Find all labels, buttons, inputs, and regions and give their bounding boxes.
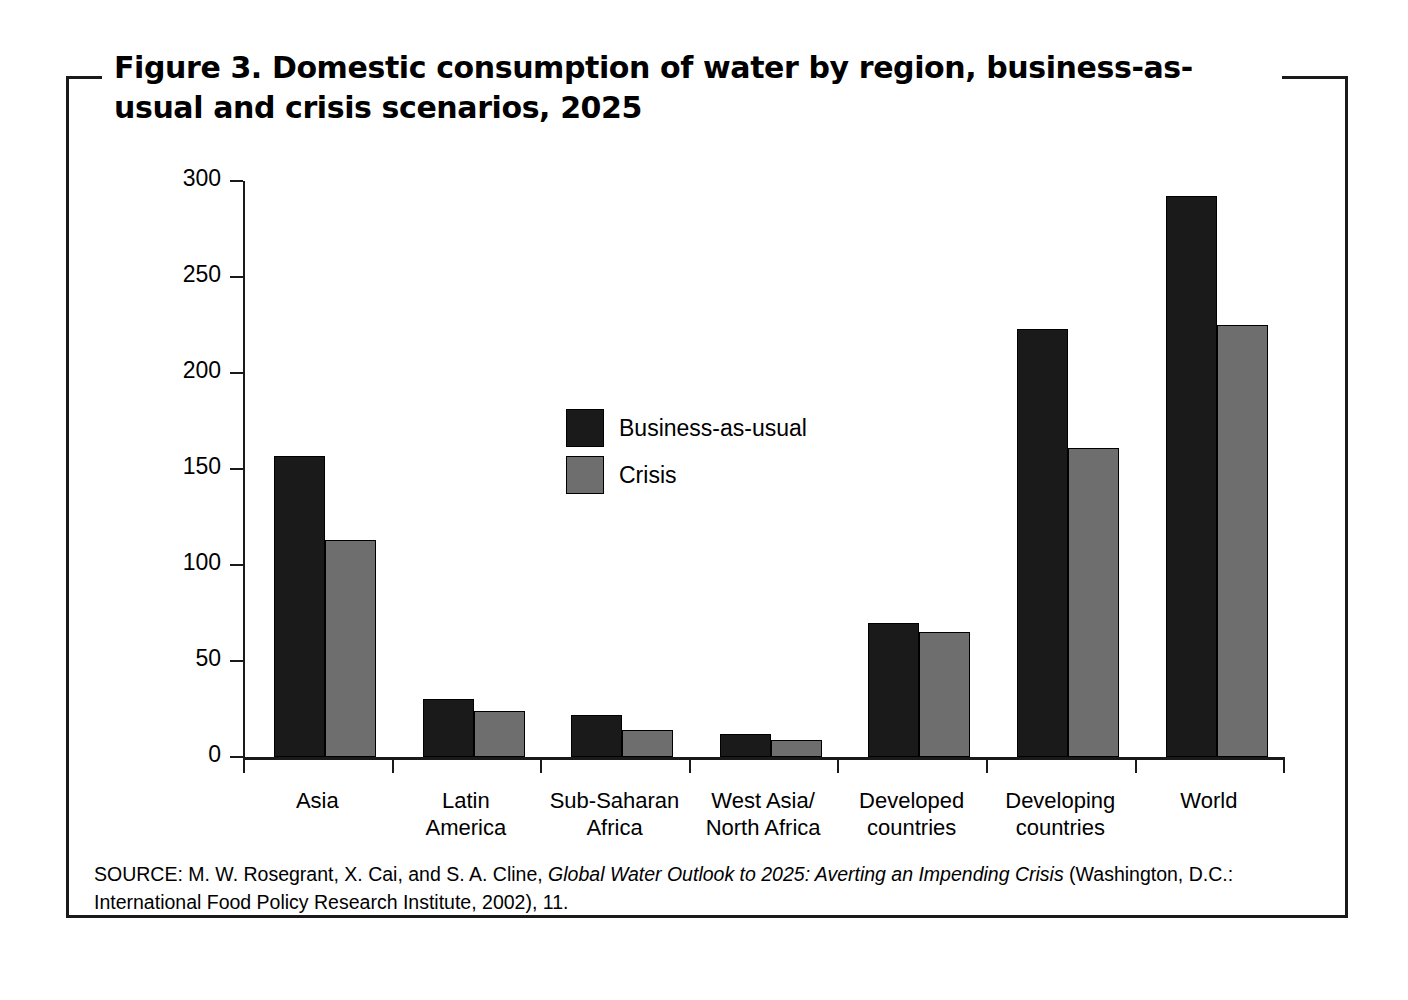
legend-item-crisis: Crisis [566,456,807,494]
y-tick-label-150: 150 [143,453,221,480]
y-tick-label-100: 100 [143,549,221,576]
bar-business-as-usual-4 [868,623,919,757]
y-tick-label-250: 250 [143,261,221,288]
bar-crisis-2 [622,730,673,757]
plot-area: 050100150200250300 AsiaLatinAmericaSub-S… [243,181,1285,757]
x-tick-5 [986,757,988,773]
y-tick-label-50: 50 [143,645,221,672]
legend-swatch-crisis-icon [566,456,604,494]
x-tick-2 [540,757,542,773]
bar-business-as-usual-1 [423,699,474,757]
chart-legend: Business-as-usual Crisis [566,409,807,503]
x-axis-line [243,757,1285,760]
bar-crisis-6 [1217,325,1268,757]
y-tick-label-200: 200 [143,357,221,384]
bar-business-as-usual-5 [1017,329,1068,757]
bar-crisis-5 [1068,448,1119,757]
figure-title: Figure 3. Domestic consumption of water … [114,48,1282,128]
bar-business-as-usual-0 [274,456,325,757]
x-tick-0 [243,757,245,773]
bar-business-as-usual-6 [1166,196,1217,757]
x-tick-4 [837,757,839,773]
y-tick-label-0: 0 [143,741,221,768]
bar-crisis-3 [771,740,822,757]
y-axis-line [243,181,245,759]
y-tick-50 [230,660,243,662]
y-tick-0 [230,756,243,758]
category-label-6: World [1099,787,1319,814]
category-label-line: World [1099,787,1319,814]
frame-border-top-left [66,76,102,79]
x-tick-3 [689,757,691,773]
y-tick-label-300: 300 [143,165,221,192]
legend-label-business-as-usual: Business-as-usual [619,415,807,442]
frame-border-right [1345,76,1348,918]
legend-swatch-business-as-usual-icon [566,409,604,447]
source-note: SOURCE: M. W. Rosegrant, X. Cai, and S. … [94,860,1324,916]
y-tick-100 [230,564,243,566]
category-label-line: countries [950,814,1170,841]
bar-crisis-4 [919,632,970,757]
y-tick-200 [230,372,243,374]
x-tick-7 [1283,757,1285,773]
source-prefix: SOURCE: M. W. Rosegrant, X. Cai, and S. … [94,863,548,885]
legend-item-business-as-usual: Business-as-usual [566,409,807,447]
y-tick-300 [230,180,243,182]
legend-label-crisis: Crisis [619,462,677,489]
figure-container: Figure 3. Domestic consumption of water … [66,62,1348,918]
bar-crisis-1 [474,711,525,757]
x-tick-1 [392,757,394,773]
frame-border-left [66,76,69,918]
bar-business-as-usual-2 [571,715,622,757]
x-tick-6 [1135,757,1137,773]
bar-crisis-0 [325,540,376,757]
y-tick-150 [230,468,243,470]
source-title-italic: Global Water Outlook to 2025: Averting a… [548,863,1064,885]
bar-business-as-usual-3 [720,734,771,757]
y-tick-250 [230,276,243,278]
